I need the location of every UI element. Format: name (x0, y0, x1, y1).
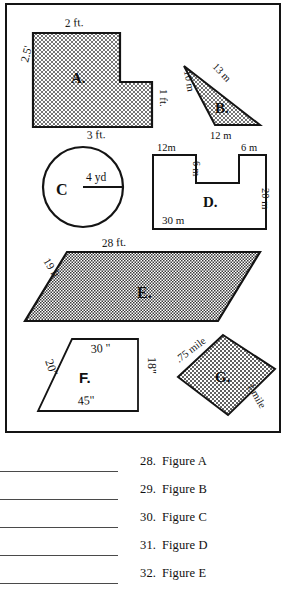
answer-blank-32[interactable] (0, 583, 118, 584)
figures-canvas: A. 2 ft. 2.5' 1 ft. 3 ft. B. 10 m 13 m 1… (7, 5, 283, 435)
figure-f-label: F. (79, 369, 91, 386)
figure-b-dim-left: 10 m (182, 69, 197, 92)
figure-a-dim-left: 2.5' (18, 45, 34, 64)
figure-c: C 4 yd (43, 147, 123, 227)
figure-a: A. 2 ft. 2.5' 1 ft. 3 ft. (18, 16, 170, 141)
figure-b: B. 10 m 13 m 12 m (182, 61, 260, 141)
answer-label-30: Figure C (162, 510, 207, 525)
figure-box: A. 2 ft. 2.5' 1 ft. 3 ft. B. 10 m 13 m 1… (5, 3, 281, 433)
figure-d-dim-top-right: 6 m (241, 142, 257, 153)
figure-a-dim-top: 2 ft. (64, 16, 83, 29)
figure-f-dim-top: 30 " (90, 341, 111, 356)
figure-e-dim-top: 28 ft. (101, 236, 126, 249)
answer-row: 28. Figure A (0, 452, 288, 480)
figure-b-dim-base: 12 m (210, 130, 231, 141)
answer-number-32: 32. (128, 566, 156, 581)
answer-number-29: 29. (128, 482, 156, 497)
figure-e: E. 28 ft. 19 ft (25, 236, 260, 321)
answer-label-29: Figure B (162, 482, 207, 497)
answer-blank-31[interactable] (0, 555, 118, 556)
answer-row: 31. Figure D (0, 536, 288, 564)
figure-d-dim-notch: 6 m (191, 161, 202, 177)
figure-f-dim-right: 18" (145, 357, 159, 374)
figure-f-dim-bottom: 45" (77, 393, 95, 408)
figure-f: F. 30 " 20" 18" 45" (38, 339, 159, 411)
figure-a-dim-bottom: 3 ft. (86, 128, 105, 141)
answer-blank-30[interactable] (0, 527, 118, 528)
answer-label-31: Figure D (162, 538, 208, 553)
answer-row: 29. Figure B (0, 480, 288, 508)
answer-number-31: 31. (128, 538, 156, 553)
answer-row: 30. Figure C (0, 508, 288, 536)
figure-g: G. .75 mile 1 mile (174, 335, 275, 415)
figure-d-dim-bottom: 30 m (162, 214, 185, 226)
figure-d-dim-right: 20 m (260, 188, 271, 209)
figure-b-label: B. (215, 100, 229, 116)
figure-e-label: E. (137, 284, 152, 301)
answer-row: 32. Figure E (0, 564, 288, 591)
answer-number-28: 28. (128, 454, 156, 469)
answer-blank-29[interactable] (0, 499, 118, 500)
worksheet-page: A. 2 ft. 2.5' 1 ft. 3 ft. B. 10 m 13 m 1… (0, 0, 288, 591)
figure-c-label: C (56, 181, 68, 198)
answer-label-32: Figure E (162, 566, 206, 581)
answer-list: 28. Figure A 29. Figure B 30. Figure C 3… (0, 452, 288, 591)
figure-d: D. 12m 6 m 6 m 20 m 30 m (153, 142, 271, 229)
figure-c-dim-radius: 4 yd (86, 171, 106, 184)
figure-d-dim-top-left: 12m (157, 142, 176, 153)
figure-d-label: D. (203, 194, 218, 210)
answer-label-28: Figure A (162, 454, 207, 469)
figure-g-label: G. (215, 369, 231, 385)
answer-number-30: 30. (128, 510, 156, 525)
figure-a-label: A. (71, 70, 86, 86)
figure-a-outline (33, 33, 152, 127)
figure-b-dim-hyp: 13 m (211, 61, 234, 84)
answer-blank-28[interactable] (0, 471, 118, 472)
figure-a-dim-right: 1 ft. (158, 89, 170, 107)
